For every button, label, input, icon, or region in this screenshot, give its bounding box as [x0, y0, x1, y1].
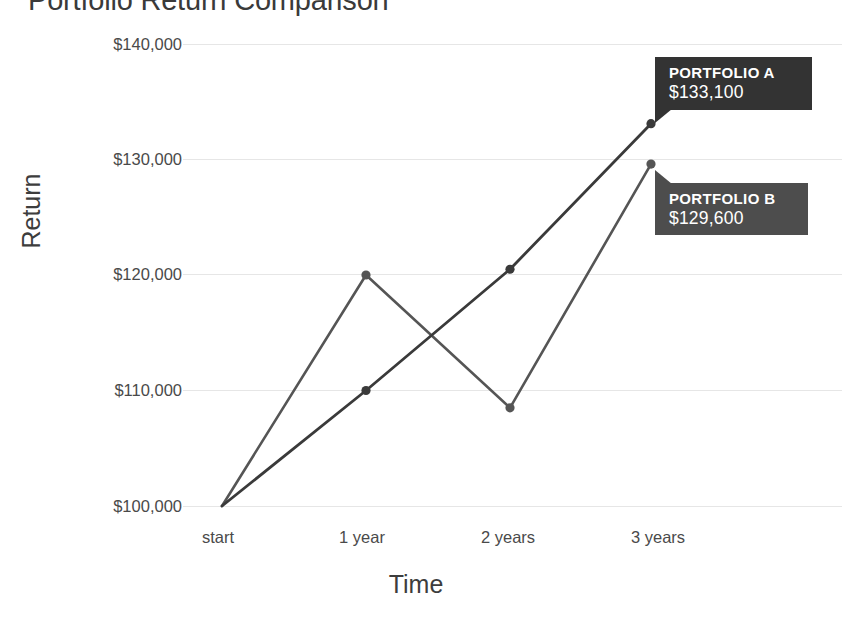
data-point-markers-portfolio-b: [361, 160, 655, 413]
tooltip-portfolio-b-name: PORTFOLIO B: [669, 190, 794, 207]
data-point-marker[interactable]: [505, 403, 514, 412]
data-point-marker[interactable]: [646, 160, 655, 169]
tooltip-portfolio-a[interactable]: PORTFOLIO A $133,100: [655, 57, 812, 110]
tooltip-portfolio-a-value: $133,100: [669, 82, 798, 102]
data-point-marker[interactable]: [361, 270, 370, 279]
chart-container: Portfolio Return Comparison $140,000 $13…: [0, 0, 842, 632]
data-point-marker[interactable]: [361, 386, 370, 395]
data-point-marker[interactable]: [505, 265, 514, 274]
tooltip-pointer-icon: [655, 109, 672, 123]
tooltip-portfolio-b[interactable]: PORTFOLIO B $129,600: [655, 183, 808, 235]
tooltip-portfolio-a-name: PORTFOLIO A: [669, 64, 798, 81]
tooltip-portfolio-b-value: $129,600: [669, 208, 794, 228]
data-point-markers-portfolio-a: [361, 119, 655, 395]
line-series-portfolio-a: [222, 124, 651, 506]
tooltip-pointer-icon: [655, 170, 672, 184]
